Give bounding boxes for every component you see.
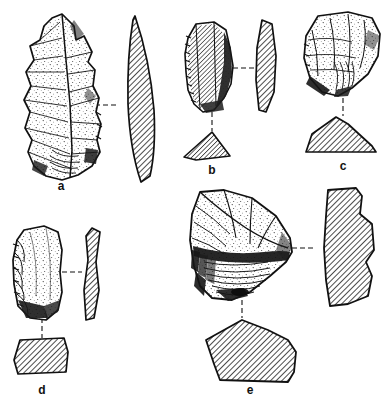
specimen-b-label: b bbox=[208, 163, 215, 177]
specimen-d-label: d bbox=[38, 383, 45, 397]
specimen-d-face-view bbox=[13, 226, 62, 320]
lithic-illustration-plate: a b bbox=[0, 0, 387, 404]
specimen-d-cross-section bbox=[14, 338, 68, 374]
specimen-c-label: c bbox=[340, 159, 347, 173]
specimen-a-label: a bbox=[58, 179, 65, 193]
specimen-e-label: e bbox=[247, 383, 254, 397]
